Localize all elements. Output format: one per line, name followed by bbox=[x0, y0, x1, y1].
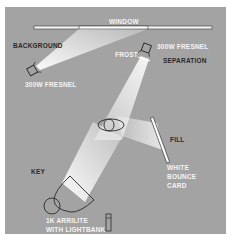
bounce-card-label-line3: CARD bbox=[167, 182, 187, 189]
background-label: BACKGROUND bbox=[13, 42, 63, 49]
frost-label: FROST bbox=[115, 51, 138, 58]
background-light-label: 300W FRESNEL bbox=[25, 81, 77, 88]
window-label: WINDOW bbox=[109, 18, 139, 25]
separation-fresnel-icon bbox=[138, 42, 153, 56]
separation-label: SEPARATION bbox=[163, 57, 207, 64]
key-light-label-line2: WITH LIGHTBANK bbox=[46, 226, 106, 233]
lighting-diagram bbox=[0, 0, 233, 239]
key-light-label-line1: 1K ARRILITE bbox=[46, 217, 88, 224]
fill-label: FILL bbox=[170, 136, 185, 143]
key-light-beam bbox=[62, 122, 122, 202]
bounce-card-label-line1: WHITE bbox=[167, 164, 189, 171]
separation-light-label: 300W FRESNEL bbox=[157, 43, 209, 50]
stand-icon bbox=[106, 214, 111, 231]
background-light-beam bbox=[36, 29, 148, 70]
window bbox=[34, 26, 212, 29]
key-label: KEY bbox=[31, 168, 45, 175]
bounce-card-label-line2: BOUNCE bbox=[167, 173, 196, 180]
